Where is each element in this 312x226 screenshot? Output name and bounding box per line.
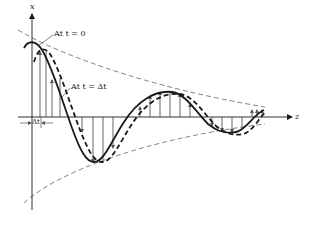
- leader-t0: [38, 35, 53, 46]
- leader-tdt: [62, 88, 70, 97]
- axes: [18, 14, 292, 210]
- z-axis-label: z: [295, 113, 299, 121]
- label-at-t0: At t = 0: [54, 30, 86, 38]
- label-at-tdt: At t = Δt: [71, 83, 106, 91]
- decay-envelope: [18, 30, 265, 203]
- diagram-canvas: [0, 0, 312, 226]
- damped-wave-diagram: x z At t = 0 At t = Δt Δt: [0, 0, 312, 226]
- x-axis-label: x: [30, 3, 35, 11]
- label-delta-t: Δt: [32, 119, 40, 126]
